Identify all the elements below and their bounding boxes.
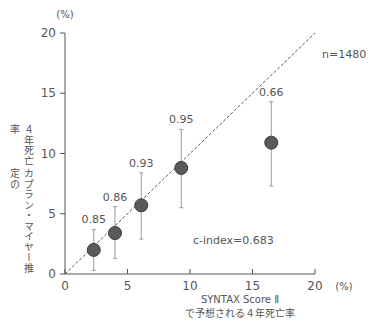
y-axis-title-line-1: カプラン・マイヤー推定の xyxy=(4,168,34,274)
c-index-annotation: c-index=0.683 xyxy=(193,234,274,247)
y-tick-label: 20 xyxy=(41,26,56,40)
n-annotation: n=1480 xyxy=(322,48,366,61)
x-tick-label: 5 xyxy=(124,279,132,293)
x-tick-label: 15 xyxy=(245,279,260,293)
point-labels: 0.850.860.930.950.66 xyxy=(82,86,284,227)
x-axis-unit: (%) xyxy=(335,281,352,292)
data-point xyxy=(135,199,148,212)
point-label: 0.66 xyxy=(259,86,284,99)
x-axis-title-line-2: で予想される４年死亡率 xyxy=(160,307,320,321)
reference-line xyxy=(65,33,315,274)
data-point xyxy=(175,161,188,174)
y-tick-label: 15 xyxy=(41,86,56,100)
x-tick-label: 20 xyxy=(307,279,322,293)
x-tick-label: 10 xyxy=(182,279,197,293)
x-tick-label: 0 xyxy=(61,279,69,293)
y-tick-label: 10 xyxy=(41,147,56,161)
x-axis-title-line-1: SYNTAX Score Ⅱ xyxy=(160,293,320,307)
point-label: 0.93 xyxy=(129,157,154,170)
data-point xyxy=(87,243,100,256)
y-axis-unit: (%) xyxy=(56,9,73,20)
y-tick-label: 5 xyxy=(48,207,56,221)
point-label: 0.95 xyxy=(169,113,194,126)
calibration-chart: 0510152005101520 0.850.860.930.950.66 (%… xyxy=(0,0,374,330)
data-point xyxy=(265,136,278,149)
y-axis-title: カプラン・マイヤー推定の ４年死亡率 xyxy=(4,84,34,274)
point-label: 0.86 xyxy=(103,191,128,204)
diagonal-reference-line xyxy=(65,33,315,274)
y-axis-title-line-2: ４年死亡率 xyxy=(4,84,34,168)
y-tick-label: 0 xyxy=(48,267,56,281)
point-label: 0.85 xyxy=(82,213,107,226)
data-point xyxy=(109,227,122,240)
x-axis-title: SYNTAX Score Ⅱ で予想される４年死亡率 xyxy=(160,293,320,321)
